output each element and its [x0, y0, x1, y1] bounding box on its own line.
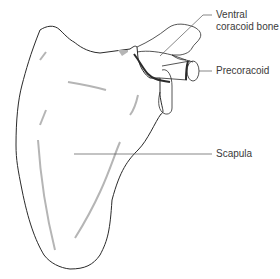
shade-upper-border — [40, 110, 46, 125]
diagram-drawing — [0, 0, 280, 279]
label-scapula: Scapula — [216, 148, 252, 160]
label-precoracoid: Precoracoid — [216, 65, 269, 77]
ventral-coracoid-lower — [137, 51, 193, 62]
precoracoid-end — [187, 61, 199, 81]
label-ventral-coracoid-line2: coracoid bone — [216, 21, 279, 33]
suture-precoracoid — [186, 61, 188, 80]
suture-ventral-coracoid — [134, 54, 170, 82]
shade-medial — [75, 142, 120, 238]
shade-glenoid — [130, 95, 138, 115]
leader-ventral-coracoid — [160, 15, 203, 56]
label-ventral-coracoid: Ventral coracoid bone — [216, 9, 279, 33]
shade-middle — [68, 82, 106, 90]
shade-lateral-border — [38, 140, 55, 250]
shade-spine — [118, 50, 128, 56]
shade-upper-left — [40, 52, 46, 60]
scapula-diagram: Ventral coracoid bone Precoracoid Scapul… — [0, 0, 280, 279]
label-ventral-coracoid-line1: Ventral — [216, 9, 279, 21]
glenoid-outline — [159, 70, 172, 114]
